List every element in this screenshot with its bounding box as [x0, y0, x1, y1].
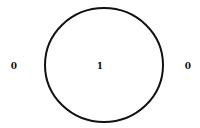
label-outside-right: 0 — [185, 62, 191, 71]
label-outside-left: 0 — [11, 62, 17, 71]
set-circle — [45, 8, 163, 122]
label-inside-circle: 1 — [97, 62, 103, 71]
venn-diagram: 0 1 0 — [0, 0, 200, 128]
